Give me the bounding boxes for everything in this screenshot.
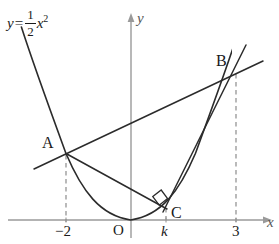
point-label-B: B: [216, 53, 227, 69]
fraction-numerator: 1: [25, 8, 36, 22]
equation-equals-sign: =: [15, 15, 23, 32]
point-label-C: C: [171, 205, 182, 221]
equation-variable: x: [37, 15, 44, 32]
x-axis-label: x: [267, 215, 274, 230]
y-axis-arrowhead: [128, 13, 135, 22]
segment-AC: [66, 154, 167, 210]
equation-fraction: 1 2: [25, 8, 36, 38]
x-tick-label-3: 3: [232, 224, 240, 239]
origin-label: O: [113, 223, 124, 238]
segment-CB: [163, 45, 246, 212]
fraction-denominator: 2: [25, 25, 36, 39]
x-tick-label-minus-2: −2: [55, 224, 71, 239]
geometry-figure: y = 1 2 x 2 A B C −2 k 3 O y x: [0, 0, 279, 244]
point-label-A: A: [42, 135, 54, 151]
line-AB: [34, 61, 263, 169]
parabola-right-trim: [232, 0, 279, 72]
y-axis-label: y: [137, 11, 144, 26]
equation-lhs: y: [7, 15, 14, 32]
equation-label: y = 1 2 x 2: [7, 8, 48, 38]
x-tick-label-k: k: [161, 224, 168, 239]
equation-exponent: 2: [43, 13, 48, 24]
